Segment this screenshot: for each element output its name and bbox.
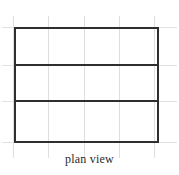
grid-horizontal-lines xyxy=(2,28,177,143)
grid-layer xyxy=(2,16,177,158)
plan-view-figure: plan view xyxy=(0,0,179,175)
plan-outline-rectangle xyxy=(15,28,158,142)
plan-view-drawing xyxy=(0,0,179,175)
grid-vertical-lines xyxy=(14,16,155,158)
plan-outline-layer xyxy=(15,28,158,142)
figure-caption: plan view xyxy=(0,152,179,166)
